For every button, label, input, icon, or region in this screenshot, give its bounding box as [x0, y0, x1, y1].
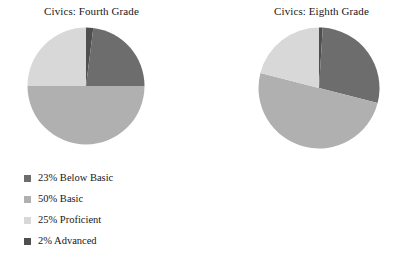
legend-label-advanced: 2% Advanced	[38, 236, 97, 247]
chart-panel-eighth-grade: Civics: Eighth Grade 28% Below Basic 50%…	[206, 0, 411, 261]
legend-label-proficient: 25% Proficient	[38, 215, 101, 226]
chart-title-eighth-grade: Civics: Eighth Grade	[206, 5, 411, 17]
pie-slice-proficient	[28, 28, 87, 87]
pie-slice-below-basic	[86, 28, 145, 86]
chart-panel-fourth-grade: Civics: Fourth Grade 23% Below Basic 50%…	[0, 0, 205, 261]
legend-item-basic: 50% Basic	[24, 189, 113, 210]
legend-item-advanced: 2% Advanced	[24, 231, 113, 252]
pie-svg-fourth-grade	[27, 27, 145, 145]
pie-charts-figure: Civics: Fourth Grade 23% Below Basic 50%…	[0, 0, 411, 261]
pie-slices-eighth-grade	[259, 28, 380, 149]
pie-svg-eighth-grade	[258, 27, 380, 149]
legend-swatch-basic-icon	[24, 196, 31, 203]
legend-swatch-proficient-icon	[24, 217, 31, 224]
legend-item-below-basic: 23% Below Basic	[24, 168, 113, 189]
pie-chart-fourth-grade	[27, 27, 145, 145]
legend-label-basic: 50% Basic	[38, 194, 83, 205]
chart-title-fourth-grade: Civics: Fourth Grade	[0, 5, 205, 17]
pie-chart-eighth-grade	[258, 27, 380, 149]
legend-item-proficient: 25% Proficient	[24, 210, 113, 231]
legend-swatch-below-basic-icon	[24, 175, 31, 182]
pie-slices-fourth-grade	[28, 28, 145, 145]
legend-fourth-grade: 23% Below Basic 50% Basic 25% Proficient…	[24, 168, 113, 252]
legend-label-below-basic: 23% Below Basic	[38, 173, 113, 184]
pie-slice-basic	[28, 86, 145, 145]
legend-swatch-advanced-icon	[24, 238, 31, 245]
